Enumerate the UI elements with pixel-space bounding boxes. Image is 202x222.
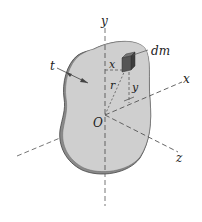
y-axis-label: y — [100, 14, 108, 28]
thickness-label: t — [50, 59, 55, 73]
x-dist-label: x — [109, 58, 116, 71]
y-dist-label: y — [131, 81, 139, 94]
r-label: r — [110, 79, 116, 92]
plate-diagram: y x z O dm t x r y — [0, 0, 202, 222]
dm-label: dm — [151, 44, 170, 58]
plate-face — [63, 41, 151, 171]
z-axis-label: z — [175, 151, 183, 165]
x-axis-label: x — [183, 72, 190, 86]
origin-label: O — [93, 116, 103, 130]
x-axis-back — [17, 138, 60, 156]
